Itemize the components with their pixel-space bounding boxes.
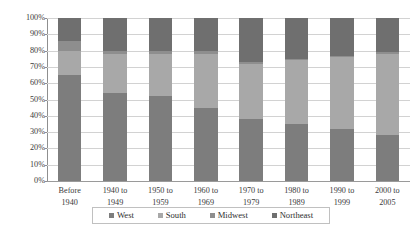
bar-segment-midwest[interactable]	[376, 52, 400, 54]
bar-column[interactable]	[58, 18, 82, 181]
gridline	[47, 132, 410, 133]
legend-swatch-icon	[158, 213, 163, 218]
y-axis-tick: 40%	[0, 112, 45, 120]
bar-segment-midwest[interactable]	[103, 51, 127, 54]
bar-segment-northeast[interactable]	[58, 18, 82, 41]
x-axis-label-line: 2005	[365, 197, 410, 209]
y-axis: 100%90%80%70%60%50%40%30%20%10%0%	[0, 18, 45, 182]
bar-segment-south[interactable]	[239, 64, 263, 119]
bar-segment-west[interactable]	[194, 108, 218, 181]
bar-segment-midwest[interactable]	[149, 51, 173, 54]
legend-item[interactable]: West	[109, 211, 134, 220]
plot-area	[47, 18, 410, 181]
legend-swatch-icon	[210, 213, 215, 218]
legend-item[interactable]: Northeast	[272, 211, 313, 220]
x-axis-label-line: 1940	[47, 197, 92, 209]
x-axis-label-line: 1980 to	[274, 185, 319, 197]
x-axis-label: Before1940	[47, 185, 92, 208]
bar-segment-northeast[interactable]	[330, 18, 354, 55]
bar-segment-west[interactable]	[330, 129, 354, 181]
gridline	[47, 148, 410, 149]
y-axis-tick: 20%	[0, 144, 45, 152]
bar-segment-south[interactable]	[330, 57, 354, 129]
bar-segment-south[interactable]	[149, 54, 173, 96]
bar-segment-west[interactable]	[239, 119, 263, 181]
bar-segment-south[interactable]	[194, 54, 218, 108]
bar-column[interactable]	[103, 18, 127, 181]
x-axis-label-line: 2000 to	[365, 185, 410, 197]
gridline	[47, 165, 410, 166]
bar-segment-midwest[interactable]	[194, 51, 218, 54]
y-axis-tick-label: 80%	[3, 47, 45, 55]
bar-column[interactable]	[194, 18, 218, 181]
gridline	[47, 51, 410, 52]
x-axis-label-line: Before	[47, 185, 92, 197]
x-axis-label-line: 1960 to	[183, 185, 228, 197]
x-axis-label: 1950 to1959	[138, 185, 183, 208]
bar-segment-midwest[interactable]	[330, 56, 354, 58]
x-axis-label: 1960 to1969	[183, 185, 228, 208]
gridline	[47, 18, 410, 19]
x-axis-label: 1990 to1999	[319, 185, 364, 208]
bar-column[interactable]	[239, 18, 263, 181]
legend-item[interactable]: Midwest	[210, 211, 248, 220]
y-axis-tick-label: 10%	[3, 161, 45, 169]
gridline	[47, 83, 410, 84]
x-axis-label: 2000 to2005	[365, 185, 410, 208]
bar-segment-northeast[interactable]	[376, 18, 400, 52]
bar-segment-northeast[interactable]	[194, 18, 218, 51]
bar-segment-northeast[interactable]	[239, 18, 263, 62]
x-axis-label-line: 1950 to	[138, 185, 183, 197]
bar-segment-northeast[interactable]	[285, 18, 309, 59]
chart-legend: WestSouthMidwestNortheast	[92, 207, 330, 224]
y-axis-tick: 50%	[0, 96, 45, 104]
gridline	[47, 67, 410, 68]
legend-swatch-icon	[272, 213, 277, 218]
bar-segment-south[interactable]	[58, 51, 82, 75]
y-axis-tick: 90%	[0, 30, 45, 38]
y-axis-tick: 30%	[0, 128, 45, 136]
legend-label: Midwest	[218, 211, 248, 220]
bar-segment-midwest[interactable]	[239, 62, 263, 64]
y-axis-tick-label: 30%	[3, 128, 45, 136]
bar-column[interactable]	[376, 18, 400, 181]
bar-segment-south[interactable]	[376, 54, 400, 136]
y-axis-tick: 10%	[0, 161, 45, 169]
y-axis-tick-label: 60%	[3, 79, 45, 87]
legend-swatch-icon	[109, 213, 114, 218]
y-axis-tick: 60%	[0, 79, 45, 87]
bar-segment-west[interactable]	[58, 75, 82, 181]
y-axis-tick: 80%	[0, 47, 45, 55]
bar-segment-northeast[interactable]	[103, 18, 127, 51]
gridline	[47, 34, 410, 35]
legend-label: West	[117, 211, 134, 220]
legend-label: Northeast	[280, 211, 313, 220]
x-axis-label-line: 1990 to	[319, 185, 364, 197]
bar-segment-west[interactable]	[149, 96, 173, 181]
legend-item[interactable]: South	[158, 211, 186, 220]
bar-column[interactable]	[330, 18, 354, 181]
bar-segment-midwest[interactable]	[58, 41, 82, 51]
y-axis-tick-label: 100%	[3, 14, 45, 22]
bar-segment-south[interactable]	[103, 54, 127, 93]
bar-segment-northeast[interactable]	[149, 18, 173, 51]
y-axis-tick: 70%	[0, 63, 45, 71]
y-axis-tick: 0%	[0, 177, 45, 185]
gridlines	[47, 18, 410, 181]
bar-column[interactable]	[285, 18, 309, 181]
x-axis-label: 1940 to1949	[92, 185, 137, 208]
x-axis-label-line: 1940 to	[92, 185, 137, 197]
bar-segment-west[interactable]	[376, 135, 400, 181]
gridline	[47, 181, 410, 182]
chart-container: 100%90%80%70%60%50%40%30%20%10%0% Before…	[0, 0, 420, 237]
x-axis-label-line: 1970 to	[229, 185, 274, 197]
bar-segment-south[interactable]	[285, 60, 309, 124]
bar-segment-west[interactable]	[103, 93, 127, 181]
y-axis-tick-label: 70%	[3, 63, 45, 71]
y-axis-tick-label: 0%	[3, 177, 45, 185]
bar-column[interactable]	[149, 18, 173, 181]
legend-label: South	[166, 211, 186, 220]
bar-segment-midwest[interactable]	[285, 59, 309, 61]
y-axis-tick-label: 20%	[3, 144, 45, 152]
bar-segment-west[interactable]	[285, 124, 309, 181]
